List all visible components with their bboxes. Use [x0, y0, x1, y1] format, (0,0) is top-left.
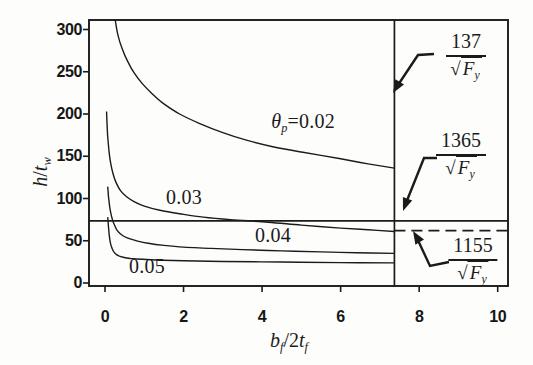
sqrt-symbol: √	[450, 58, 460, 79]
fraction-denominator: √Fy	[436, 156, 486, 177]
arrow-to-solid-horizontal-line	[406, 158, 437, 203]
y-tick-label-250: 250	[57, 64, 83, 80]
y-tick-label-0: 0	[74, 275, 83, 291]
fraction-denominator: √Fy	[446, 57, 486, 78]
x-tick-label-2: 2	[179, 309, 188, 325]
y-tick-label-50: 50	[65, 233, 82, 249]
y-axis-title: h/tw	[30, 157, 50, 186]
x-tick-label-6: 6	[336, 309, 345, 325]
fraction-numerator: 1365	[436, 129, 486, 156]
curve-0.03	[107, 112, 395, 232]
y-tick-label-150: 150	[57, 148, 83, 164]
annotation-137-over-sqrt-fy: 137 √Fy	[446, 30, 486, 78]
x-tick-label-0: 0	[101, 309, 110, 325]
curve-0.02	[115, 20, 394, 168]
annotation-1155-over-sqrt-fy: 1155 √Fy	[448, 234, 497, 282]
y-tick-label-200: 200	[57, 106, 83, 122]
annotation-1365-over-sqrt-fy: 1365 √Fy	[436, 129, 486, 177]
y-tick-label-300: 300	[57, 22, 83, 38]
sqrt-symbol: √	[445, 157, 455, 178]
fraction-numerator: 137	[446, 30, 486, 57]
curve-label-theta-0.02: θp=0.02	[271, 111, 335, 131]
fraction-numerator: 1155	[448, 234, 497, 261]
fraction-denominator: √Fy	[448, 261, 497, 282]
arrow-to-vertical-line	[396, 54, 434, 88]
arrow-to-dashed-line-head	[413, 231, 424, 245]
figure-beam-slenderness-chart: h/tw bf/2tf θp=0.02 0.03 0.04 0.05 137 √…	[0, 0, 533, 365]
sqrt-symbol: √	[457, 262, 467, 283]
curve-label-theta-0.04: 0.04	[255, 225, 291, 245]
x-axis-title: bf/2tf	[270, 330, 308, 350]
curve-label-theta-0.03: 0.03	[166, 187, 202, 207]
y-tick-label-100: 100	[57, 191, 83, 207]
arrow-to-solid-horizontal-line-head	[403, 197, 412, 211]
data-curves	[107, 20, 395, 263]
curve-label-theta-0.05: 0.05	[129, 256, 165, 276]
x-tick-label-8: 8	[415, 309, 424, 325]
x-tick-label-4: 4	[258, 309, 267, 325]
x-tick-label-10: 10	[489, 309, 506, 325]
